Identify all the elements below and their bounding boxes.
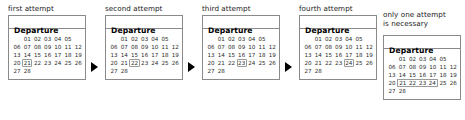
calendar-day[interactable]: 18 xyxy=(63,51,73,59)
calendar-day[interactable]: 11 xyxy=(63,43,73,51)
calendar-day[interactable]: 06 xyxy=(12,43,22,51)
calendar-day[interactable]: 01 xyxy=(22,35,32,43)
calendar-grid[interactable]: 0102030405060708091011121314151617181920… xyxy=(106,29,182,79)
calendar-day[interactable]: 27 xyxy=(206,67,216,75)
calendar-day[interactable]: 14 xyxy=(216,51,226,59)
calendar-day[interactable]: 25 xyxy=(438,79,448,87)
calendar-day[interactable]: 16 xyxy=(418,71,428,79)
calendar-day[interactable]: 12 xyxy=(170,43,180,51)
calendar-day[interactable]: 16 xyxy=(43,51,53,59)
calendar-day[interactable]: 04 xyxy=(247,35,257,43)
calendar-day[interactable]: 13 xyxy=(12,51,22,59)
calendar-day[interactable]: 10 xyxy=(428,63,438,71)
calendar-day[interactable]: 02 xyxy=(407,55,417,63)
calendar-day[interactable]: 14 xyxy=(22,51,32,59)
calendar-day[interactable]: 13 xyxy=(109,51,119,59)
calendar-day[interactable]: 23 xyxy=(43,59,53,67)
calendar-day[interactable]: 15 xyxy=(407,71,417,79)
calendar-day[interactable]: 05 xyxy=(438,55,448,63)
calendar-day[interactable]: 14 xyxy=(397,71,407,79)
calendar-day[interactable]: 16 xyxy=(237,51,247,59)
calendar-day[interactable]: 08 xyxy=(32,43,42,51)
calendar-day[interactable]: 15 xyxy=(129,51,139,59)
calendar-day[interactable]: 23 xyxy=(334,59,344,67)
calendar-day[interactable]: 02 xyxy=(129,35,139,43)
calendar-day[interactable]: 02 xyxy=(323,35,333,43)
calendar-day[interactable]: 25 xyxy=(257,59,267,67)
calendar-day[interactable]: 05 xyxy=(257,35,267,43)
calendar-day[interactable]: 15 xyxy=(226,51,236,59)
calendar-panel[interactable]: Departure 010203040506070809101112131415… xyxy=(383,35,461,100)
calendar-day[interactable]: 09 xyxy=(237,43,247,51)
calendar-day[interactable]: 14 xyxy=(313,51,323,59)
calendar-day-selected[interactable]: 24 xyxy=(344,59,354,67)
calendar-day[interactable]: 19 xyxy=(448,71,458,79)
calendar-day[interactable]: 22 xyxy=(226,59,236,67)
calendar-day[interactable]: 07 xyxy=(119,43,129,51)
calendar-panel[interactable]: Departure 010203040506070809101112131415… xyxy=(105,15,183,80)
calendar-day[interactable]: 05 xyxy=(160,35,170,43)
calendar-day[interactable]: 28 xyxy=(216,67,226,75)
calendar-day[interactable]: 25 xyxy=(354,59,364,67)
calendar-panel[interactable]: Departure 010203040506070809101112131415… xyxy=(299,15,377,80)
calendar-day[interactable]: 26 xyxy=(73,59,83,67)
calendar-day[interactable]: 03 xyxy=(334,35,344,43)
calendar-day[interactable]: 17 xyxy=(428,71,438,79)
calendar-panel[interactable]: Departure 010203040506070809101112131415… xyxy=(202,15,280,80)
calendar-day[interactable]: 03 xyxy=(43,35,53,43)
calendar-day[interactable]: 01 xyxy=(119,35,129,43)
calendar-day[interactable]: 25 xyxy=(63,59,73,67)
calendar-day-selected[interactable]: 21 xyxy=(397,79,407,87)
calendar-grid[interactable]: 0102030405060708091011121314151617181920… xyxy=(9,29,85,79)
calendar-day[interactable]: 08 xyxy=(323,43,333,51)
calendar-grid[interactable]: 0102030405060708091011121314151617181920… xyxy=(300,29,376,79)
calendar-day[interactable]: 05 xyxy=(354,35,364,43)
calendar-day[interactable]: 18 xyxy=(438,71,448,79)
calendar-day[interactable]: 11 xyxy=(438,63,448,71)
calendar-day-selected[interactable]: 22 xyxy=(407,79,417,87)
calendar-day[interactable]: 17 xyxy=(53,51,63,59)
calendar-day[interactable]: 10 xyxy=(150,43,160,51)
calendar-day[interactable]: 02 xyxy=(32,35,42,43)
calendar-grid[interactable]: 0102030405060708091011121314151617181920… xyxy=(384,49,460,99)
calendar-day[interactable]: 07 xyxy=(22,43,32,51)
calendar-day[interactable]: 17 xyxy=(150,51,160,59)
calendar-day[interactable]: 06 xyxy=(387,63,397,71)
calendar-day[interactable]: 09 xyxy=(140,43,150,51)
calendar-day[interactable]: 08 xyxy=(129,43,139,51)
calendar-grid[interactable]: 0102030405060708091011121314151617181920… xyxy=(203,29,279,79)
calendar-day[interactable]: 23 xyxy=(140,59,150,67)
calendar-day[interactable]: 27 xyxy=(109,67,119,75)
calendar-day[interactable]: 14 xyxy=(119,51,129,59)
calendar-day[interactable]: 16 xyxy=(140,51,150,59)
calendar-day[interactable]: 16 xyxy=(334,51,344,59)
calendar-day[interactable]: 20 xyxy=(387,79,397,87)
calendar-day[interactable]: 05 xyxy=(63,35,73,43)
calendar-day[interactable]: 04 xyxy=(428,55,438,63)
calendar-day[interactable]: 04 xyxy=(150,35,160,43)
calendar-day[interactable]: 27 xyxy=(303,67,313,75)
calendar-day-selected[interactable]: 22 xyxy=(129,59,139,67)
calendar-day[interactable]: 04 xyxy=(344,35,354,43)
calendar-day[interactable]: 07 xyxy=(397,63,407,71)
calendar-day[interactable]: 08 xyxy=(407,63,417,71)
calendar-day[interactable]: 19 xyxy=(73,51,83,59)
calendar-day[interactable]: 19 xyxy=(364,51,374,59)
calendar-day[interactable]: 19 xyxy=(267,51,277,59)
calendar-day[interactable]: 26 xyxy=(170,59,180,67)
calendar-day[interactable]: 22 xyxy=(323,59,333,67)
calendar-day[interactable]: 01 xyxy=(313,35,323,43)
calendar-day-selected[interactable]: 23 xyxy=(418,79,428,87)
calendar-day[interactable]: 28 xyxy=(313,67,323,75)
calendar-day[interactable]: 13 xyxy=(387,71,397,79)
calendar-day[interactable]: 01 xyxy=(216,35,226,43)
calendar-day[interactable]: 20 xyxy=(109,59,119,67)
calendar-day[interactable]: 11 xyxy=(257,43,267,51)
calendar-day[interactable]: 27 xyxy=(387,87,397,95)
calendar-day[interactable]: 02 xyxy=(226,35,236,43)
calendar-day[interactable]: 10 xyxy=(247,43,257,51)
calendar-day[interactable]: 28 xyxy=(119,67,129,75)
calendar-day[interactable]: 25 xyxy=(160,59,170,67)
calendar-day[interactable]: 09 xyxy=(418,63,428,71)
calendar-day[interactable]: 08 xyxy=(226,43,236,51)
